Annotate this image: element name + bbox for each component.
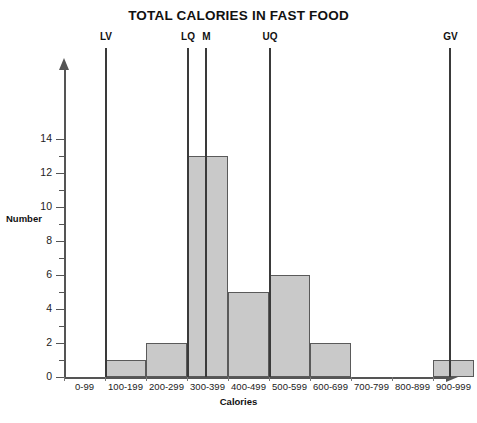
chart-title: TOTAL CALORIES IN FAST FOOD: [0, 8, 477, 23]
marker-label-m: M: [202, 31, 210, 42]
x-tick-mark-400-499: [228, 377, 229, 381]
bar-400-499: [228, 292, 269, 377]
x-tick-mark-700-799: [351, 377, 352, 381]
y-axis-title: Number: [6, 213, 42, 224]
x-tick-label-100-199: 100-199: [108, 381, 143, 392]
x-tick-label-900-999: 900-999: [436, 381, 471, 392]
x-tick-mark-800-899: [392, 377, 393, 381]
x-tick-label-700-799: 700-799: [354, 381, 389, 392]
bar-300-399: [187, 156, 228, 377]
y-tick-label-4: 4: [24, 302, 52, 314]
x-tick-mark-0-99: [64, 377, 65, 381]
y-tick-label-6: 6: [24, 268, 52, 280]
x-tick-label-600-699: 600-699: [313, 381, 348, 392]
y-tick-label-10: 10: [24, 200, 52, 212]
x-tick-mark-900-999: [433, 377, 434, 381]
bar-900-999: [433, 360, 474, 377]
x-axis-title: Calories: [0, 396, 477, 407]
y-tick-label-0: 0: [24, 370, 52, 382]
marker-line-lq: [187, 48, 189, 377]
x-tick-mark-100-199: [105, 377, 106, 381]
x-tick-mark-600-699: [310, 377, 311, 381]
x-tick-mark-200-299: [146, 377, 147, 381]
marker-line-gv: [449, 48, 451, 377]
x-tick-label-300-399: 300-399: [190, 381, 225, 392]
chart-container: TOTAL CALORIES IN FAST FOOD 02468101214 …: [0, 0, 477, 423]
bar-600-699: [310, 343, 351, 377]
bars-layer: [64, 66, 450, 377]
x-tick-mark-300-399: [187, 377, 188, 381]
x-tick-label-800-899: 800-899: [395, 381, 430, 392]
y-tick-label-8: 8: [24, 234, 52, 246]
x-tick-label-200-299: 200-299: [149, 381, 184, 392]
x-tick-label-0-99: 0-99: [75, 381, 94, 392]
y-tick-label-14: 14: [24, 132, 52, 144]
marker-line-uq: [269, 48, 271, 377]
bar-500-599: [269, 275, 310, 377]
x-axis-line: [64, 377, 447, 379]
marker-line-m: [205, 48, 207, 377]
marker-label-gv: GV: [443, 31, 457, 42]
bar-200-299: [146, 343, 187, 377]
x-tick-label-400-499: 400-499: [231, 381, 266, 392]
marker-label-lv: LV: [100, 31, 112, 42]
marker-label-uq: UQ: [263, 31, 278, 42]
marker-line-lv: [105, 48, 107, 377]
x-tick-mark-500-599: [269, 377, 270, 381]
bar-100-199: [105, 360, 146, 377]
y-tick-label-2: 2: [24, 336, 52, 348]
x-tick-label-500-599: 500-599: [272, 381, 307, 392]
marker-label-lq: LQ: [181, 31, 195, 42]
y-tick-label-12: 12: [24, 166, 52, 178]
